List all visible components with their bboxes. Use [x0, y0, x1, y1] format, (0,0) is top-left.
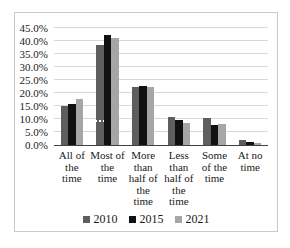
plot-area — [54, 28, 268, 145]
bar-2010 — [239, 140, 247, 145]
bar-2021 — [218, 124, 226, 145]
y-tick-label: 40.0% — [12, 35, 48, 48]
bar-group — [90, 28, 126, 145]
y-tick-label: 30.0% — [12, 61, 48, 74]
bar-group — [161, 28, 197, 145]
bar-2010 — [168, 117, 176, 145]
legend-swatch-2015 — [129, 216, 136, 223]
y-tick-label: 0.0% — [12, 139, 48, 152]
bar-group — [197, 28, 233, 145]
legend: 201020152021 — [15, 212, 277, 227]
bar-group — [54, 28, 90, 145]
x-axis-label: At no time — [229, 150, 271, 173]
legend-label: 2010 — [94, 212, 118, 227]
bar-group — [232, 28, 268, 145]
legend-item-2010: 2010 — [83, 212, 118, 227]
bar-2010 — [203, 118, 211, 145]
bar-2021 — [76, 99, 84, 145]
bar-2010 — [96, 45, 104, 145]
bar-2021 — [147, 87, 155, 146]
bar-2015 — [211, 125, 219, 146]
bar-group — [125, 28, 161, 145]
bar-2010 — [61, 106, 69, 145]
y-tick-label: 10.0% — [12, 113, 48, 126]
bar-2015 — [68, 104, 76, 145]
chart-frame: 45.0%40.0%35.0%30.0%25.0%20.0%15.0%10.0%… — [14, 12, 278, 232]
bar-2010 — [132, 87, 140, 145]
y-tick-label: 5.0% — [12, 126, 48, 139]
y-axis-labels: 45.0%40.0%35.0%30.0%25.0%20.0%15.0%10.0%… — [15, 13, 51, 231]
bar-2015 — [104, 35, 112, 145]
bar-2015 — [139, 86, 147, 145]
legend-label: 2015 — [140, 212, 164, 227]
legend-item-2021: 2021 — [175, 212, 210, 227]
y-tick-label: 20.0% — [12, 87, 48, 100]
legend-item-2015: 2015 — [129, 212, 164, 227]
bar-2015 — [246, 142, 254, 145]
bar-2021 — [254, 143, 262, 145]
bar-2015 — [175, 120, 183, 145]
y-tick-label: 45.0% — [12, 22, 48, 35]
y-tick-label: 35.0% — [12, 48, 48, 61]
y-tick-label: 15.0% — [12, 100, 48, 113]
bar-2021 — [111, 38, 119, 145]
legend-label: 2021 — [186, 212, 210, 227]
bar-2021 — [183, 123, 191, 145]
legend-swatch-2010 — [83, 216, 90, 223]
legend-swatch-2021 — [175, 216, 182, 223]
y-tick-label: 25.0% — [12, 74, 48, 87]
x-axis-line — [54, 145, 268, 146]
